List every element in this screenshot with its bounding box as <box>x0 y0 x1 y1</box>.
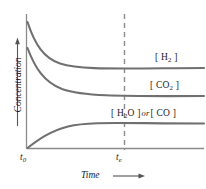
y-axis-label: Concentration <box>13 40 23 130</box>
series-label-h2: [ H2 ] <box>155 52 178 63</box>
series-label-h2o-mid: O ] <box>128 108 141 118</box>
series-label-h2o-open: [ H <box>111 108 124 118</box>
equilibrium-concentration-figure: [ H2 ] [ CO2 ] [ H2O ]or[ CO ] t0 te Tim… <box>0 0 206 189</box>
x-axis-arrow-icon <box>113 174 145 179</box>
series-label-co-close: [ CO ] <box>151 108 176 118</box>
x-tick-te-sub: e <box>119 156 122 163</box>
x-tick-te: te <box>116 152 122 163</box>
series-label-h2-close: ] <box>172 52 178 62</box>
x-axis-label: Time <box>81 170 99 180</box>
series-label-h2-open: [ H <box>155 52 168 62</box>
series-label-co2-close: ] <box>173 80 179 90</box>
series-label-co2: [ CO2 ] <box>150 80 179 91</box>
series-label-or-word: or <box>141 108 151 118</box>
series-label-co2-open: [ CO <box>150 80 170 90</box>
series-label-h2o-co: [ H2O ]or[ CO ] <box>111 108 176 119</box>
x-tick-t0-sub: 0 <box>23 156 26 163</box>
x-tick-t0: t0 <box>20 152 26 163</box>
curve-h2o-co <box>28 123 205 148</box>
plot-area <box>0 0 206 189</box>
